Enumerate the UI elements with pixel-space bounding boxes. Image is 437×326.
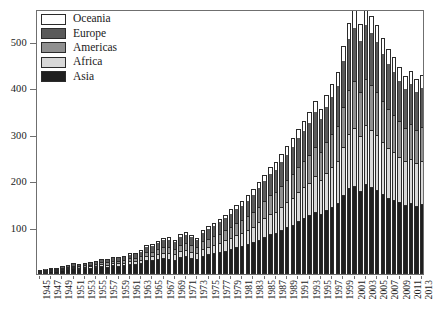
bar-segment-americas [251, 213, 255, 228]
x-tick-label: 1947 [54, 280, 64, 299]
bar-1955 [94, 261, 98, 274]
x-tick-label: 1965 [155, 280, 165, 299]
bar-segment-oceania [358, 24, 362, 41]
bar-segment-asia [397, 203, 401, 274]
bar-segment-americas [313, 148, 317, 178]
bar-segment-asia [150, 261, 154, 274]
x-tick-mark [174, 276, 175, 279]
bar-1986 [268, 167, 272, 274]
bar-segment-africa [291, 199, 295, 226]
bar-segment-africa [302, 188, 306, 219]
bar-segment-americas [268, 196, 272, 215]
bar-2009 [397, 67, 401, 274]
bar-2005 [375, 25, 379, 274]
bar-segment-europe [364, 25, 368, 80]
bar-segment-asia [38, 273, 42, 274]
x-tick-mark [219, 276, 220, 279]
x-axis: 1945194719491951195319551957195919611963… [36, 276, 424, 326]
bar-segment-asia [246, 245, 250, 274]
x-tick-mark [106, 276, 107, 279]
legend-item-africa: Africa [41, 56, 117, 68]
bar-segment-asia [189, 259, 193, 274]
bar-2002 [358, 24, 362, 274]
bar-1991 [296, 129, 300, 274]
x-tick-label: 1997 [335, 280, 345, 299]
x-tick-mark [84, 276, 85, 279]
x-tick-label: 1963 [144, 280, 154, 299]
bar-segment-europe [409, 84, 413, 125]
bar-segment-europe [201, 233, 205, 243]
bar-segment-oceania [414, 79, 418, 92]
legend-swatch-icon [41, 71, 66, 82]
bar-segment-asia [414, 207, 418, 274]
x-tick-label: 2013 [425, 280, 435, 299]
bar-segment-asia [71, 269, 75, 274]
bar-segment-asia [409, 204, 413, 274]
bar-segment-oceania [307, 112, 311, 123]
x-tick-mark [151, 276, 152, 279]
bar-1987 [274, 162, 278, 274]
bar-segment-asia [201, 257, 205, 274]
x-tick-label: 1985 [268, 280, 278, 299]
bar-segment-americas [246, 217, 250, 230]
bar-segment-americas [218, 235, 222, 244]
x-tick-mark [95, 276, 96, 279]
bar-segment-europe [392, 72, 396, 116]
bar-segment-africa [324, 174, 328, 211]
bar-segment-asia [66, 270, 70, 274]
bar-segment-europe [195, 240, 199, 248]
bar-1999 [341, 46, 345, 274]
bar-segment-asia [420, 205, 424, 274]
bar-segment-americas [381, 102, 385, 143]
x-tick-mark [421, 276, 422, 279]
bar-segment-asia [279, 231, 283, 274]
legend-item-label: Europe [73, 28, 106, 40]
bar-segment-europe [223, 218, 227, 231]
bar-1996 [324, 95, 328, 274]
bar-segment-africa [397, 158, 401, 204]
bar-segment-asia [111, 266, 115, 274]
bar-1973 [195, 238, 199, 274]
bar-1971 [184, 232, 188, 274]
bar-segment-oceania [381, 38, 385, 54]
x-tick-label: 2005 [380, 280, 390, 299]
bar-segment-americas [274, 193, 278, 213]
bar-segment-oceania [409, 71, 413, 84]
bar-segment-oceania [279, 154, 283, 162]
bar-segment-africa [223, 241, 227, 251]
bar-2011 [409, 71, 413, 274]
x-tick-mark [376, 276, 377, 279]
x-tick-mark [275, 276, 276, 279]
bar-1984 [257, 182, 261, 274]
bar-1985 [262, 175, 266, 274]
bar-segment-europe [397, 81, 401, 123]
bar-segment-europe [336, 86, 340, 127]
bar-segment-americas [262, 202, 266, 219]
bar-segment-asia [369, 188, 373, 274]
bar-segment-africa [251, 228, 255, 244]
bar-segment-europe [285, 155, 289, 182]
bar-1963 [139, 250, 143, 274]
bar-segment-americas [330, 135, 334, 168]
bar-segment-oceania [285, 146, 289, 154]
bar-segment-americas [409, 125, 413, 159]
bar-segment-europe [341, 61, 345, 107]
bar-segment-asia [116, 267, 120, 274]
bar-segment-oceania [369, 16, 373, 33]
x-tick-label: 1959 [122, 280, 132, 299]
bar-segment-europe [156, 243, 160, 250]
bar-segment-europe [184, 235, 188, 244]
bar-segment-americas [307, 156, 311, 184]
bar-1950 [66, 265, 70, 274]
x-tick-mark [342, 276, 343, 279]
bar-segment-asia [381, 195, 385, 274]
bar-segment-asia [375, 191, 379, 274]
bar-segment-oceania [291, 138, 295, 147]
x-tick-mark [252, 276, 253, 279]
x-tick-label: 1989 [290, 280, 300, 299]
bar-segment-africa [296, 193, 300, 222]
bar-segment-asia [319, 215, 323, 275]
bar-1957 [105, 259, 109, 274]
x-tick-label: 1983 [256, 280, 266, 299]
bar-1983 [251, 189, 255, 274]
